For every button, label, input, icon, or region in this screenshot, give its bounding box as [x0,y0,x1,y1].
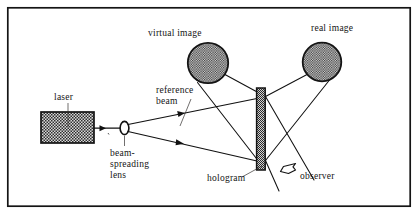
virtual-image-circle [188,43,228,83]
label-virtual-image: virtual image [148,28,202,38]
label-reference-beam-line2: beam [156,96,178,106]
real-image-circle [303,43,342,82]
label-real-image: real image [311,23,353,33]
label-reference-beam-line1: reference [156,85,194,95]
label-lens-line3: lens [110,170,126,180]
label-lens-line2: spreading [110,159,149,169]
label-hologram: hologram [207,173,246,183]
laser-box [41,112,94,143]
label-laser: laser [54,92,74,102]
hologram-plate [257,88,266,170]
label-lens-line1: beam- [110,148,135,158]
hologram-assembly [257,88,266,170]
holography-diagram-canvas: virtual image real image laser reference… [0,0,418,217]
beam-spreading-lens [120,121,129,134]
beam-spreading-lens-assembly [120,121,129,134]
label-observer: observer [300,171,335,181]
holography-figure: virtual image real image laser reference… [0,0,418,217]
